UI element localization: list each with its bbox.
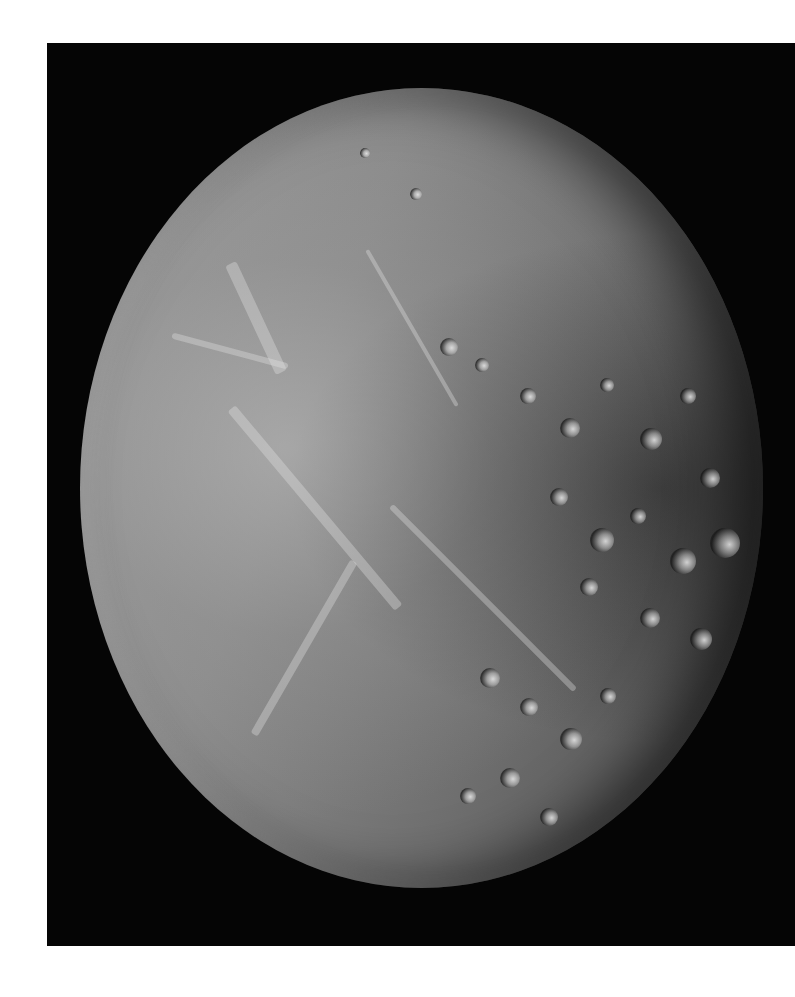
crater <box>550 488 568 506</box>
crater <box>630 508 646 524</box>
crater <box>690 628 712 650</box>
crater <box>475 358 489 372</box>
groove-band <box>228 405 403 611</box>
crater <box>360 148 370 158</box>
crater <box>520 698 538 716</box>
crater <box>540 808 558 826</box>
crater <box>700 468 720 488</box>
crater <box>680 388 696 404</box>
crater <box>410 188 422 200</box>
groove-band <box>389 504 577 692</box>
crater <box>580 578 598 596</box>
crater <box>640 608 660 628</box>
crater <box>560 728 582 750</box>
groove-band <box>251 559 358 736</box>
crater <box>710 528 740 558</box>
crater <box>590 528 614 552</box>
crater <box>560 418 580 438</box>
groove-band <box>365 249 458 407</box>
moon-disk <box>80 88 763 888</box>
crater <box>670 548 696 574</box>
crater <box>500 768 520 788</box>
crater <box>480 668 500 688</box>
crater <box>520 388 536 404</box>
crater <box>440 338 458 356</box>
crater <box>600 688 616 704</box>
crater <box>460 788 476 804</box>
crater <box>600 378 614 392</box>
crater <box>640 428 662 450</box>
photo-frame: Grayscale photograph of a heavily crater… <box>47 43 795 946</box>
